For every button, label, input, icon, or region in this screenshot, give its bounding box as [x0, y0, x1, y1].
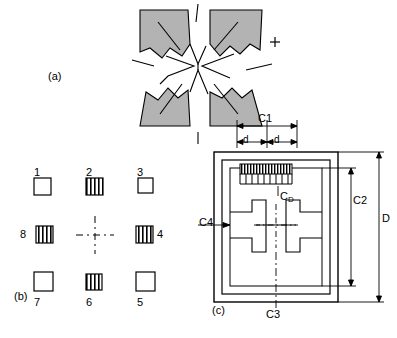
panel-b-number-1: 1 [34, 166, 40, 178]
panel-c-label-d-left: d [243, 134, 249, 145]
panel-b-element-5 [136, 272, 155, 291]
panel-c-label: (c) [212, 304, 225, 316]
panel-b-number-3: 3 [137, 166, 143, 178]
panel-c-comb [240, 174, 292, 184]
panel-a-shading [140, 10, 262, 126]
panel-b-label: (b) [14, 290, 27, 302]
panel-c-dim-c2 [322, 168, 356, 286]
panel-c-label-d-right: d [274, 134, 280, 145]
panel-c-label-c4: C4 [199, 216, 213, 228]
panel-b-element-1 [34, 178, 51, 195]
panel-c-dim-d [338, 152, 384, 302]
panel-b-number-4: 4 [157, 228, 163, 240]
panel-b-element-8 [36, 226, 53, 243]
panel-a-label: (a) [48, 70, 61, 82]
panel-c-label-cd: CD [280, 190, 294, 204]
panel-c-label-d: D [382, 212, 390, 224]
panel-b-number-2: 2 [86, 166, 92, 178]
panel-c-label-c3: C3 [266, 308, 280, 320]
panel-b-number-6: 6 [86, 296, 92, 308]
panel-b-number-7: 7 [34, 296, 40, 308]
panel-c-label-cd-sub: D [288, 195, 294, 204]
figure-container: (a) [0, 0, 397, 338]
panel-b-element-6 [86, 274, 102, 290]
panel-c-label-cd-main: C [280, 190, 288, 202]
panel-a-minus-marker [270, 37, 280, 47]
panel-c-feed-bar [240, 164, 292, 174]
panel-c-label-c1: C1 [258, 112, 272, 124]
panel-b-number-8: 8 [20, 228, 26, 240]
panel-b-element-2 [86, 178, 103, 195]
panel-b-center-cross [76, 216, 114, 254]
panel-c-label-c2: C2 [353, 194, 367, 206]
panel-b-element-7 [34, 272, 53, 291]
panel-c-drawing [196, 112, 392, 330]
panel-b-element-4 [136, 226, 153, 243]
panel-b-number-5: 5 [137, 296, 143, 308]
panel-c-center-cross [254, 204, 298, 248]
panel-b-element-3 [138, 178, 153, 193]
